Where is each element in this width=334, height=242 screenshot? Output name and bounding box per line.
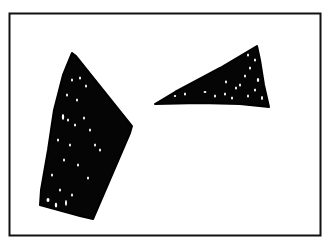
hatch-fleck (57, 138, 59, 141)
hatch-fleck (247, 94, 249, 97)
right-triangle-fill (155, 46, 269, 107)
hatch-fleck (77, 163, 79, 166)
hatch-fleck (94, 143, 96, 146)
hatch-fleck (231, 96, 233, 99)
hatch-fleck (224, 92, 226, 95)
hatch-fleck (254, 88, 256, 91)
hatch-fleck (247, 53, 249, 56)
hatch-fleck (204, 91, 207, 93)
sketch-canvas (0, 0, 334, 242)
hatch-fleck (225, 81, 227, 84)
hatch-fleck (184, 92, 186, 95)
hatch-fleck (63, 158, 65, 161)
hatch-fleck (55, 203, 57, 208)
hatch-fleck (65, 200, 67, 206)
right-triangle (155, 46, 269, 107)
hatch-fleck (67, 118, 69, 121)
left-quadrilateral-fill (40, 53, 132, 219)
hatch-fleck (76, 98, 78, 101)
hatch-fleck (71, 193, 73, 196)
hatch-fleck (79, 76, 81, 79)
hatch-fleck (239, 83, 241, 86)
hatch-fleck (69, 143, 71, 146)
hatch-fleck (257, 78, 259, 82)
hatch-fleck (66, 93, 68, 96)
hatch-fleck (62, 114, 64, 120)
hatch-fleck (51, 173, 53, 176)
hatch-fleck (71, 78, 73, 81)
hatch-fleck (47, 198, 50, 202)
hatch-fleck (244, 74, 246, 77)
hatch-fleck (261, 96, 263, 100)
hatch-fleck (74, 123, 76, 126)
hatch-fleck (85, 84, 87, 87)
hatch-fleck (214, 94, 216, 97)
left-quadrilateral (40, 53, 132, 219)
hatch-fleck (249, 66, 251, 69)
hatch-fleck (235, 86, 237, 89)
hatch-fleck (83, 116, 85, 119)
hatch-fleck (87, 176, 89, 179)
hatch-fleck (99, 148, 101, 151)
hatch-fleck (59, 188, 61, 191)
hatch-fleck (174, 95, 176, 97)
hatch-fleck (254, 58, 256, 61)
hatch-fleck (89, 128, 91, 131)
